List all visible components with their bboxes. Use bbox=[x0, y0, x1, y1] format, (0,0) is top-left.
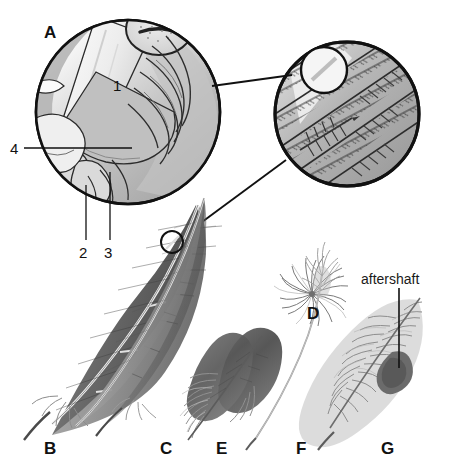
illustration-layer bbox=[0, 0, 455, 469]
callout-4: 4 bbox=[10, 141, 18, 156]
specimen-e-artwork bbox=[180, 328, 282, 440]
callout-3: 3 bbox=[104, 245, 112, 260]
specimen-letter-c: C bbox=[160, 440, 173, 457]
specimen-letter-f: F bbox=[296, 440, 307, 457]
feather-anatomy-figure: A 1 2 3 4 B C D E F G aftershaft bbox=[0, 0, 455, 469]
callout-1: 1 bbox=[113, 78, 121, 93]
magnifier-artwork bbox=[268, 4, 436, 206]
specimen-letter-g: G bbox=[381, 440, 395, 457]
specimen-letter-b: B bbox=[44, 440, 57, 457]
annotation-aftershaft: aftershaft bbox=[361, 272, 419, 286]
specimen-letter-e: E bbox=[216, 440, 228, 457]
panel-a-artwork bbox=[34, 3, 220, 210]
specimen-letter-d: D bbox=[307, 305, 320, 322]
panel-letter-a: A bbox=[44, 24, 57, 41]
callout-2: 2 bbox=[79, 245, 87, 260]
